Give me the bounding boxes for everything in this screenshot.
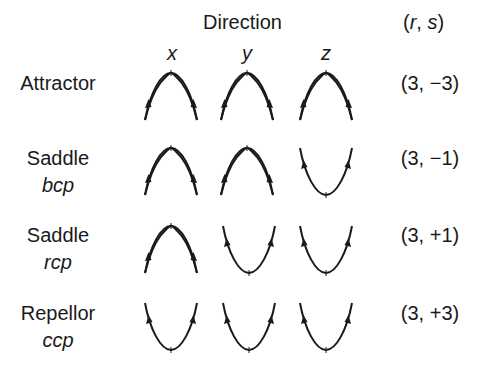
curve-bcp-z (300, 148, 352, 198)
curve-attractor-x (145, 70, 197, 120)
curve-ccp-y (223, 303, 275, 353)
curve-rcp-y (223, 226, 275, 276)
curve-bcp-x (145, 145, 197, 195)
curve-attractor-y (221, 70, 273, 120)
curve-attractor-z (300, 70, 352, 120)
curve-ccp-x (145, 303, 197, 353)
curve-rcp-z (300, 226, 352, 276)
curve-bcp-y (221, 145, 273, 195)
curvature-diagram (0, 0, 485, 373)
curve-ccp-z (300, 303, 352, 353)
curve-rcp-x (145, 223, 197, 273)
